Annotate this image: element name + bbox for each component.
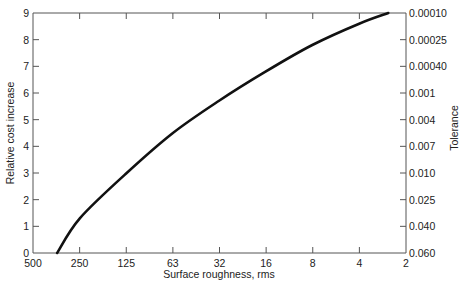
x-tick-label: 4 [356, 257, 362, 269]
y2-tick-label: 0.00025 [409, 34, 447, 46]
y2-tick-label: 0.00040 [409, 60, 447, 72]
right-y-ticks: 0.0600.0400.0250.0100.0070.0040.0010.000… [400, 7, 447, 259]
cost-curve [57, 13, 388, 253]
top-x-ticks [80, 13, 360, 19]
y2-tick-label: 0.004 [409, 114, 435, 126]
x-tick-label: 8 [310, 257, 316, 269]
y-tick-label: 6 [23, 87, 29, 99]
y-tick-label: 2 [23, 194, 29, 206]
x-ticks: 500250125633216842 [24, 247, 409, 269]
y-tick-label: 1 [23, 220, 29, 232]
y2-tick-label: 0.007 [409, 140, 435, 152]
x-axis-title: Surface roughness, rms [163, 268, 274, 280]
y-tick-label: 8 [23, 34, 29, 46]
y-tick-label: 9 [23, 7, 29, 19]
x-tick-label: 500 [24, 257, 42, 269]
y-tick-label: 3 [23, 167, 29, 179]
y-tick-label: 7 [23, 60, 29, 72]
y-tick-label: 5 [23, 114, 29, 126]
y2-tick-label: 0.00010 [409, 7, 447, 19]
y-axis-title: Relative cost increase [4, 81, 16, 184]
chart: 0123456789 0.0600.0400.0250.0100.0070.00… [0, 0, 468, 287]
left-y-ticks: 0123456789 [23, 7, 39, 259]
y2-tick-label: 0.010 [409, 167, 435, 179]
x-tick-label: 2 [403, 257, 409, 269]
plot-frame [33, 13, 406, 253]
x-tick-label: 250 [71, 257, 89, 269]
y-tick-label: 4 [23, 140, 29, 152]
y2-tick-label: 0.040 [409, 220, 435, 232]
x-tick-label: 125 [117, 257, 135, 269]
y2-tick-label: 0.060 [409, 247, 435, 259]
y2-tick-label: 0.025 [409, 194, 435, 206]
y2-axis-title: Tolerance [448, 105, 460, 151]
y2-tick-label: 0.001 [409, 87, 435, 99]
